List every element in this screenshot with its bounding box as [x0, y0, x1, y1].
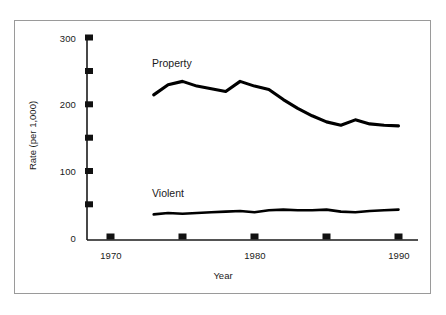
- series-line-violent: [154, 210, 399, 215]
- y-tick-label-100: 100: [46, 166, 76, 177]
- y-tick-label-300: 300: [46, 33, 76, 44]
- x-axis-title: Year: [0, 270, 446, 281]
- bottom-caption: [0, 306, 446, 315]
- chart-plot-area: [0, 0, 446, 315]
- y-tick-label-0: 0: [46, 233, 76, 244]
- x-axis-ticks: [107, 234, 403, 240]
- x-tick-label-1970: 1970: [86, 250, 136, 261]
- y-axis-title: Rate (per 1,000): [27, 76, 38, 196]
- series-label-violent: Violent: [152, 187, 184, 199]
- x-tick-label-1980: 1980: [230, 250, 280, 261]
- series-label-property: Property: [152, 57, 192, 69]
- chart-figure: 300 200 100 0 1970 1980 1990 Property Vi…: [0, 0, 446, 315]
- y-tick-label-200: 200: [46, 99, 76, 110]
- series-line-property: [154, 81, 399, 126]
- x-tick-label-1990: 1990: [374, 250, 424, 261]
